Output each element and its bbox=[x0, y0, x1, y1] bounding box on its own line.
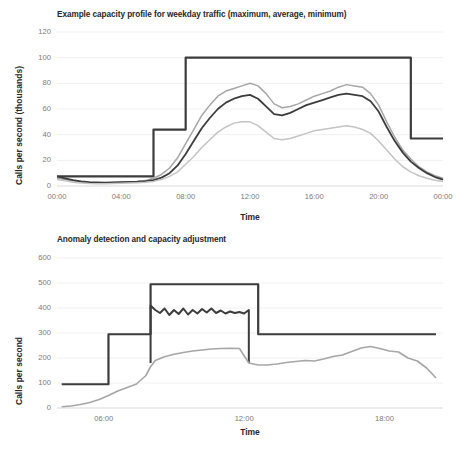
series-minimum bbox=[57, 122, 443, 184]
chart-panel-anomaly-detection: Anomaly detection and capacity adjustmen… bbox=[0, 230, 451, 458]
series-average bbox=[57, 94, 443, 183]
series-anomaly-burst bbox=[151, 306, 249, 364]
chart-panel-capacity-profile: Example capacity profile for weekday tra… bbox=[0, 0, 451, 230]
plot-area-bottom bbox=[0, 230, 451, 458]
series-maximum bbox=[57, 83, 443, 182]
x-axis-title-top: Time bbox=[200, 212, 300, 222]
x-axis-title-bottom: Time bbox=[200, 427, 300, 437]
plot-area-top bbox=[0, 0, 451, 230]
